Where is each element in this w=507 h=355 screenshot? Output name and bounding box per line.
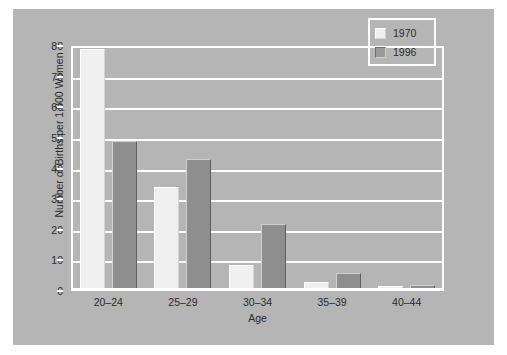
- y-tick-mark: [57, 259, 63, 261]
- y-tick-mark: [57, 198, 63, 200]
- bar-1996-35-39[interactable]: [336, 273, 361, 288]
- bar-1970-20-24[interactable]: [80, 49, 105, 288]
- chart-canvas: Number of Births per 1,000 Women 0102030…: [13, 9, 494, 345]
- chart-figure: Number of Births per 1,000 Women 0102030…: [0, 0, 507, 355]
- bar-1970-30-34[interactable]: [229, 265, 254, 288]
- x-tick-label: 25–29: [168, 296, 197, 308]
- bar-group: [378, 48, 435, 288]
- y-tick-mark: [57, 229, 63, 231]
- y-tick-mark: [57, 106, 63, 108]
- bar-1996-20-24[interactable]: [112, 141, 137, 288]
- chart-legend: 19701996: [368, 18, 436, 66]
- bar-group: [154, 48, 211, 288]
- legend-swatch-icon: [375, 47, 386, 58]
- legend-item-1996[interactable]: 1996: [375, 43, 434, 62]
- bar-1996-30-34[interactable]: [261, 224, 286, 288]
- bar-1970-25-29[interactable]: [154, 187, 179, 288]
- x-tick-label: 35–39: [317, 296, 346, 308]
- x-tick-label: 20–24: [94, 296, 123, 308]
- legend-item-1970[interactable]: 1970: [375, 24, 434, 43]
- legend-swatch-icon: [375, 28, 386, 39]
- y-tick-mark: [57, 45, 63, 47]
- plot-area: [71, 46, 444, 291]
- x-axis-tick-labels: 20–2425–2930–3435–3940–44: [71, 296, 444, 312]
- bar-group: [304, 48, 361, 288]
- x-axis-title: Age: [71, 312, 444, 324]
- legend-label: 1970: [393, 28, 416, 39]
- y-tick-mark: [57, 76, 63, 78]
- y-tick-mark: [57, 168, 63, 170]
- y-tick-mark: [57, 290, 63, 292]
- y-tick-mark: [57, 137, 63, 139]
- y-axis-tick-labels: 01020304050607080: [13, 46, 63, 291]
- x-tick-label: 40–44: [392, 296, 421, 308]
- legend-label: 1996: [393, 47, 416, 58]
- bar-1996-25-29[interactable]: [186, 159, 211, 288]
- bar-group: [80, 48, 137, 288]
- bar-1970-35-39[interactable]: [304, 282, 329, 288]
- bar-group: [229, 48, 286, 288]
- bar-1996-40-44[interactable]: [410, 285, 435, 288]
- x-tick-label: 30–34: [243, 296, 272, 308]
- bar-1970-40-44[interactable]: [378, 286, 403, 288]
